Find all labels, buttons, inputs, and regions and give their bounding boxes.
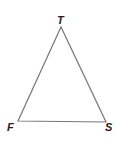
- vertex-label-t: T: [57, 14, 65, 26]
- triangle-diagram: T F S: [0, 0, 119, 143]
- triangle-tfs: [18, 27, 106, 122]
- vertex-label-s: S: [105, 121, 113, 133]
- vertex-label-f: F: [7, 121, 14, 133]
